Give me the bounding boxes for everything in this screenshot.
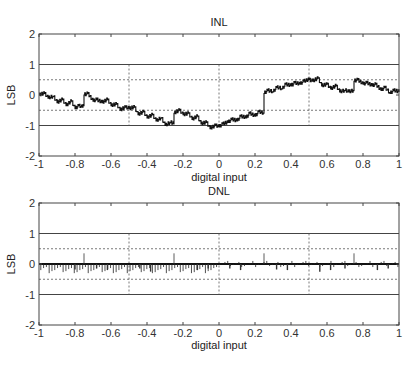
x-tick-label: 0.2 (247, 158, 262, 170)
inl-xlabel: digital input (191, 171, 247, 183)
inl-axes-frame (39, 34, 399, 156)
inl-ylabel: LSB (5, 85, 17, 106)
y-tick-label: -2 (25, 319, 35, 331)
x-tick-label: 0.4 (283, 158, 298, 170)
x-tick-label: 1 (396, 158, 402, 170)
x-tick-label: -1 (34, 158, 44, 170)
y-tick-label: 1 (29, 228, 35, 240)
x-tick-label: -0.2 (174, 327, 193, 339)
x-tick-label: 1 (396, 327, 402, 339)
y-tick-label: 0 (29, 258, 35, 270)
x-tick-label: 0.8 (355, 327, 370, 339)
figure: INL -1-0.8-0.6-0.4-0.200.20.40.60.81-2-1… (0, 0, 414, 365)
inl-plot: INL -1-0.8-0.6-0.4-0.200.20.40.60.81-2-1… (5, 16, 402, 183)
inl-gridlines (39, 65, 399, 126)
dnl-plot: DNL -1-0.8-0.6-0.4-0.200.20.40.60.81-2-1… (5, 185, 402, 351)
x-tick-label: -0.6 (102, 158, 121, 170)
x-tick-label: -1 (34, 327, 44, 339)
x-tick-label: -0.4 (138, 158, 157, 170)
x-tick-label: -0.2 (174, 158, 193, 170)
x-tick-label: -0.4 (138, 327, 157, 339)
chart-canvas: INL -1-0.8-0.6-0.4-0.200.20.40.60.81-2-1… (0, 0, 414, 365)
y-tick-label: -2 (25, 150, 35, 162)
y-tick-label: -1 (25, 289, 35, 301)
dnl-xlabel: digital input (191, 339, 247, 351)
x-tick-label: 0.2 (247, 327, 262, 339)
x-tick-label: -0.6 (102, 327, 121, 339)
x-tick-label: 0.6 (319, 327, 334, 339)
x-tick-label: 0.4 (283, 327, 298, 339)
y-tick-label: -1 (25, 120, 35, 132)
y-tick-label: 2 (29, 197, 35, 209)
y-tick-label: 1 (29, 59, 35, 71)
y-tick-label: 2 (29, 28, 35, 40)
x-tick-label: -0.8 (66, 158, 85, 170)
x-tick-label: 0.8 (355, 158, 370, 170)
dnl-title: DNL (208, 185, 230, 197)
inl-title: INL (210, 16, 227, 28)
x-tick-label: 0.6 (319, 158, 334, 170)
x-tick-label: 0 (216, 158, 222, 170)
y-tick-label: 0 (29, 89, 35, 101)
dnl-ylabel: LSB (5, 254, 17, 275)
x-tick-label: -0.8 (66, 327, 85, 339)
inl-ticks: -1-0.8-0.6-0.4-0.200.20.40.60.81-2-1012 (25, 28, 402, 170)
x-tick-label: 0 (216, 327, 222, 339)
